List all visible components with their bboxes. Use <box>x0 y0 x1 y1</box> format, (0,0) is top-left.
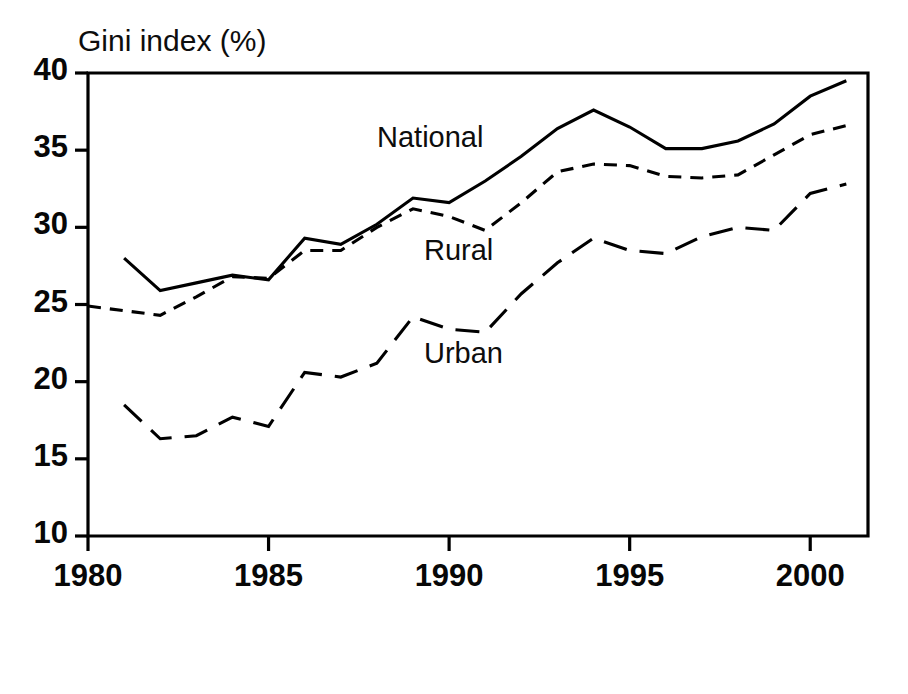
series-line-rural <box>88 125 846 315</box>
y-tick-label: 15 <box>34 438 68 474</box>
y-tick-label: 25 <box>34 284 68 320</box>
x-tick-label: 1985 <box>199 558 339 594</box>
y-axis-title: Gini index (%) <box>78 24 266 58</box>
y-tick-label: 10 <box>34 515 68 551</box>
series-label-urban: Urban <box>424 337 503 370</box>
series-label-rural: Rural <box>424 234 493 267</box>
x-tick-label: 1995 <box>560 558 700 594</box>
y-tick-label: 30 <box>34 206 68 242</box>
series-line-urban <box>124 184 846 439</box>
series-label-national: National <box>377 121 483 154</box>
y-tick-label: 40 <box>34 52 68 88</box>
y-tick-label: 20 <box>34 361 68 397</box>
x-tick-label: 1980 <box>18 558 158 594</box>
x-tick-label: 1990 <box>379 558 519 594</box>
x-tick-label: 2000 <box>740 558 880 594</box>
y-tick-label: 35 <box>34 129 68 165</box>
gini-index-chart: Gini index (%) 10152025303540 1980198519… <box>0 0 908 694</box>
